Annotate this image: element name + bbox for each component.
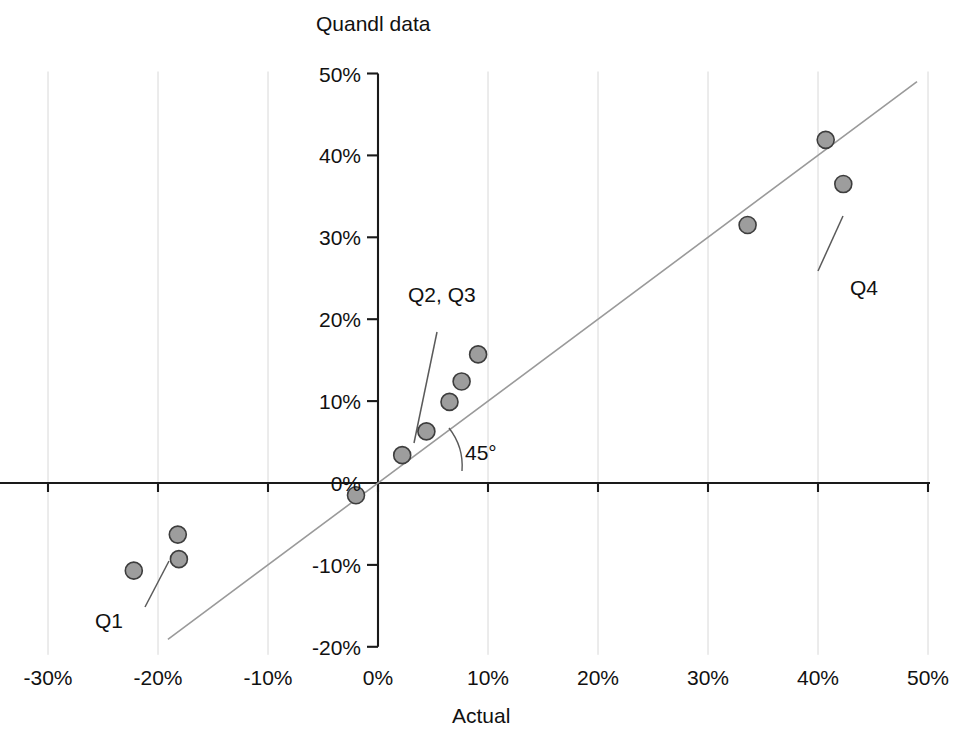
data-point <box>394 447 411 464</box>
scatter-chart: -30%-20%-10%0%10%20%30%40%50%-20%-10%0%1… <box>0 0 968 734</box>
x-tick-label: 50% <box>907 666 949 689</box>
axes-group <box>0 74 930 647</box>
tick-labels-group: -30%-20%-10%0%10%20%30%40%50%-20%-10%0%1… <box>23 63 949 689</box>
annotation-label: Q2, Q3 <box>408 283 476 306</box>
data-point <box>453 373 470 390</box>
y-tick-label: 50% <box>319 63 361 86</box>
data-point <box>169 526 186 543</box>
data-point <box>125 562 142 579</box>
data-point <box>441 393 458 410</box>
y-tick-label: -10% <box>312 554 361 577</box>
data-point <box>170 551 187 568</box>
y-tick-label: 30% <box>319 226 361 249</box>
annotation-leader-line <box>145 561 169 607</box>
annotation-label: Q4 <box>850 276 878 299</box>
reference-line-45deg <box>168 82 917 640</box>
annotation-labels-group: Q1Q2, Q3Q445° <box>95 276 878 632</box>
x-tick-label: -10% <box>243 666 292 689</box>
x-tick-label: 30% <box>687 666 729 689</box>
data-points-group <box>125 131 852 579</box>
y-tick-label: -20% <box>312 636 361 659</box>
chart-canvas: -30%-20%-10%0%10%20%30%40%50%-20%-10%0%1… <box>0 0 968 734</box>
data-point <box>470 346 487 363</box>
y-tick-label: 0% <box>331 472 361 495</box>
annotation-label: 45° <box>465 441 497 464</box>
x-tick-label: -30% <box>23 666 72 689</box>
data-point <box>835 176 852 193</box>
annotation-label: Q1 <box>95 609 123 632</box>
data-point <box>418 423 435 440</box>
x-tick-label: 0% <box>363 666 393 689</box>
y-tick-label: 20% <box>319 308 361 331</box>
x-tick-label: 20% <box>577 666 619 689</box>
y-tick-label: 10% <box>319 390 361 413</box>
angle-arc <box>449 428 462 471</box>
y-axis-title: Quandl data <box>316 12 431 35</box>
data-point <box>739 217 756 234</box>
annotation-leaders-group <box>145 216 843 607</box>
x-axis-title: Actual <box>452 704 510 727</box>
x-tick-label: 40% <box>797 666 839 689</box>
x-tick-label: 10% <box>467 666 509 689</box>
reference-line-group <box>168 82 917 640</box>
data-point <box>817 131 834 148</box>
annotation-leader-line <box>818 216 843 271</box>
y-tick-label: 40% <box>319 144 361 167</box>
x-tick-label: -20% <box>133 666 182 689</box>
